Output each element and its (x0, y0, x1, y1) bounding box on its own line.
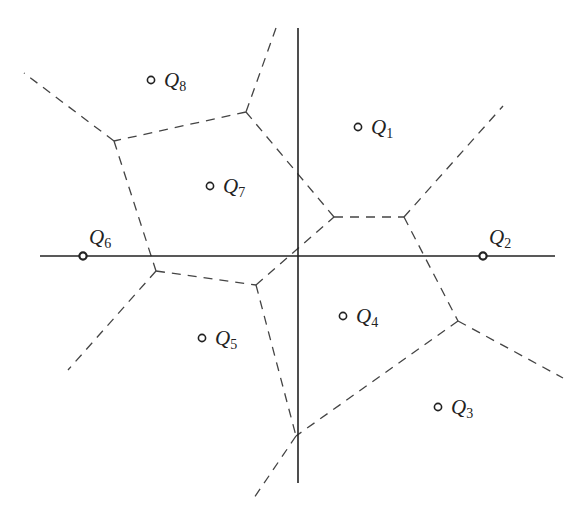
site-label: Q6 (89, 225, 111, 251)
site-label: Q1 (371, 115, 393, 141)
site-q3: Q3 (434, 395, 473, 421)
voronoi-edge (114, 112, 246, 141)
voronoi-edge (156, 271, 256, 285)
site-q5: Q5 (198, 326, 237, 352)
site-q1: Q1 (354, 115, 393, 141)
voronoi-edge (246, 112, 334, 217)
site-q7: Q7 (206, 174, 245, 200)
site-label: Q8 (164, 68, 186, 94)
site-label: Q7 (223, 174, 245, 200)
voronoi-edges (24, 28, 563, 498)
voronoi-edge (404, 106, 503, 217)
voronoi-edge (68, 271, 156, 370)
site-point-icon (79, 252, 86, 259)
site-q8: Q8 (147, 68, 186, 94)
voronoi-edge (458, 321, 563, 378)
site-label: Q2 (489, 225, 511, 251)
site-label: Q4 (356, 304, 378, 330)
voronoi-diagram: Q1Q2Q3Q4Q5Q6Q7Q8 (0, 0, 585, 522)
coordinate-axes (40, 28, 555, 483)
site-label: Q5 (215, 326, 237, 352)
voronoi-sites: Q1Q2Q3Q4Q5Q6Q7Q8 (79, 68, 511, 421)
site-point-icon (206, 182, 213, 189)
voronoi-edge (404, 217, 458, 321)
voronoi-edge (246, 28, 276, 112)
voronoi-edge (296, 321, 458, 436)
site-point-icon (479, 252, 486, 259)
voronoi-edge (256, 217, 334, 285)
site-q6: Q6 (79, 225, 111, 260)
site-q4: Q4 (339, 304, 378, 330)
site-point-icon (354, 123, 361, 130)
site-point-icon (147, 76, 154, 83)
voronoi-edge (254, 436, 296, 498)
site-point-icon (339, 312, 346, 319)
site-q2: Q2 (479, 225, 511, 260)
site-label: Q3 (451, 395, 473, 421)
voronoi-edge (24, 73, 114, 141)
voronoi-edge (256, 285, 296, 436)
site-point-icon (434, 403, 441, 410)
site-point-icon (198, 334, 205, 341)
voronoi-edge (114, 141, 156, 271)
